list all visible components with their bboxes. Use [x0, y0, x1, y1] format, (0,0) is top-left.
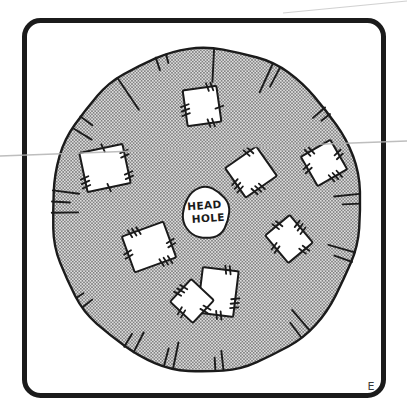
fringe-tick — [52, 202, 70, 203]
fringe-tick — [215, 358, 216, 371]
panel-letter: E — [368, 380, 375, 393]
fringe-tick — [343, 204, 360, 205]
head-hole-label: HEAD HOLE — [187, 198, 225, 226]
comic-panel: HEAD HOLE E — [0, 0, 407, 416]
patch-square — [183, 86, 222, 126]
head-hole-label-line1: HEAD — [187, 198, 222, 212]
head-hole-label-line2: HOLE — [191, 211, 225, 225]
scan-artifact-line — [283, 1, 407, 13]
poncho-illustration: HEAD HOLE E — [0, 0, 407, 416]
